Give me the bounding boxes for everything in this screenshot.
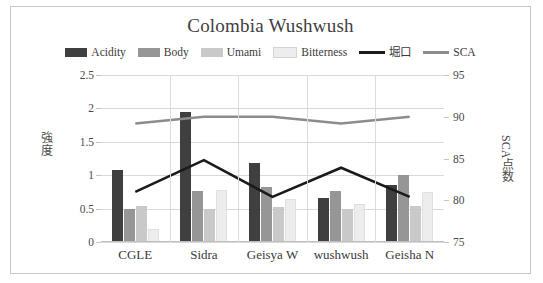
legend-label: SCA <box>453 47 475 59</box>
category-separator <box>375 75 376 242</box>
legend-swatch <box>273 47 297 58</box>
secondary-y-axis-tick-mark <box>444 75 449 76</box>
legend-label: Acidity <box>91 47 126 59</box>
x-axis-category-labels: CGLESidraGeisya WwushwushGeisha N <box>101 247 444 263</box>
line-series-horiguchi[interactable] <box>135 160 409 197</box>
y-axis-tick-label: 0.5 <box>80 203 94 215</box>
x-axis-label: Sidra <box>170 247 239 263</box>
legend-item[interactable]: Bitterness <box>273 47 347 59</box>
legend-item[interactable]: 堀口 <box>359 47 411 59</box>
chart-legend: AcidityBodyUmamiBitterness堀口SCA <box>11 47 530 59</box>
secondary-y-axis-tick-label: 85 <box>453 153 465 165</box>
y-axis-tick-label: 2.5 <box>80 69 94 81</box>
secondary-y-axis-tick-mark <box>444 117 449 118</box>
y-axis-tick-label: 2 <box>88 102 94 114</box>
secondary-y-axis-tick-label: 75 <box>453 236 465 248</box>
legend-item[interactable]: Umami <box>201 47 262 59</box>
category-separator <box>170 75 171 242</box>
category-separator <box>307 75 308 242</box>
legend-swatch <box>138 48 160 57</box>
legend-label: Umami <box>227 47 262 59</box>
x-axis-label: Geisya W <box>238 247 307 263</box>
secondary-y-axis-tick-label: 95 <box>453 69 465 81</box>
y-axis-tick-label: 1 <box>88 169 94 181</box>
legend-line-marker <box>423 51 449 54</box>
legend-item[interactable]: Body <box>138 47 189 59</box>
legend-swatch <box>65 48 87 57</box>
chart-frame: Colombia Wushwush AcidityBodyUmamiBitter… <box>10 6 531 274</box>
secondary-y-axis-tick-label: 90 <box>453 111 465 123</box>
x-axis-label: CGLE <box>101 247 170 263</box>
legend-label: Body <box>164 47 189 59</box>
legend-item[interactable]: Acidity <box>65 47 126 59</box>
secondary-y-axis-tick-mark <box>444 200 449 201</box>
secondary-y-axis-title: SCA点数 <box>498 135 515 182</box>
line-series-sca[interactable] <box>135 117 409 124</box>
x-axis-label: Geisha N <box>375 247 444 263</box>
y-axis-tick-mark <box>96 242 101 243</box>
x-axis-label: wushwush <box>307 247 376 263</box>
secondary-y-axis-tick-label: 80 <box>453 194 465 206</box>
y-axis-tick-label: 1.5 <box>80 136 94 148</box>
y-axis-tick-label: 0 <box>88 236 94 248</box>
category-separator <box>238 75 239 242</box>
legend-item[interactable]: SCA <box>423 47 475 59</box>
line-series-layer <box>101 75 444 242</box>
chart-title: Colombia Wushwush <box>11 15 530 37</box>
legend-label: 堀口 <box>389 47 411 59</box>
x-axis-line <box>101 241 444 242</box>
legend-line-marker <box>359 51 385 54</box>
legend-swatch <box>201 48 223 57</box>
y-axis-title: 強度 <box>37 131 54 157</box>
plot-area: 00.511.522.5 7580859095 <box>101 75 444 242</box>
legend-label: Bitterness <box>301 47 347 59</box>
secondary-y-axis-tick-mark <box>444 242 449 243</box>
gridline <box>101 242 444 243</box>
secondary-y-axis-tick-mark <box>444 159 449 160</box>
